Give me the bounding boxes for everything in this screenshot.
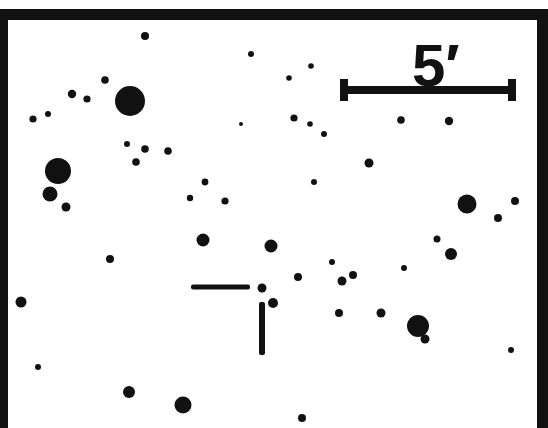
scale-bar-left-cap [340,79,348,101]
star [141,145,149,153]
star [83,95,90,102]
star [458,195,477,214]
star [62,203,71,212]
star [311,179,317,185]
star [329,259,335,265]
star [308,63,314,69]
star [239,122,243,126]
star [197,234,210,247]
star [335,309,343,317]
star [445,117,453,125]
star [494,214,502,222]
star [16,297,27,308]
star [294,273,302,281]
star [45,158,71,184]
star-field: 5′ [0,0,548,428]
star [175,397,192,414]
frame-top-border [0,9,548,20]
star [298,414,306,422]
frame-left-border [0,9,8,428]
star [132,158,140,166]
star [401,265,407,271]
star [45,111,51,117]
chart-frame [0,9,548,428]
star [202,179,209,186]
star [29,115,36,122]
scale-bar-right-cap [508,79,516,101]
star [434,236,441,243]
star [43,187,58,202]
finding-chart: 5′ [0,0,548,428]
star [290,114,297,121]
star [68,90,76,98]
target-star [258,284,267,293]
star [115,86,145,116]
marker-vertical-tick [259,302,265,355]
star [397,116,405,124]
star [508,347,514,353]
star [377,309,386,318]
star [124,141,130,147]
star [511,197,519,205]
scale-bar: 5′ [340,32,516,101]
star [268,298,278,308]
star [407,315,429,337]
star [286,75,292,81]
marker-horizontal-tick [191,285,250,290]
star [101,76,109,84]
star [421,335,430,344]
star [265,240,278,253]
star [106,255,114,263]
star [164,147,172,155]
star [445,248,457,260]
star [365,159,374,168]
star [338,277,347,286]
star [248,51,254,57]
star [349,271,357,279]
frame-right-border [537,9,548,428]
star [221,197,228,204]
star [141,32,149,40]
star [123,386,135,398]
star [187,195,193,201]
target-marker [191,284,267,356]
star [35,364,41,370]
star [321,131,327,137]
scale-bar-line [344,86,512,94]
star [307,121,313,127]
